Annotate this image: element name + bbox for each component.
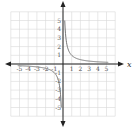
y-axis-down-arrow-icon: [61, 121, 66, 127]
axes: [5, 1, 124, 127]
x-tick-label: 4: [96, 65, 100, 72]
x-tick-label: -3: [34, 65, 40, 72]
x-axis-label: x: [127, 60, 132, 69]
y-tick-label: 4: [57, 25, 61, 32]
y-tick-label: 2: [57, 43, 61, 50]
hyperbola-branch: [65, 21, 109, 63]
y-tick-label: 3: [57, 34, 61, 41]
y-tick-label: -5: [55, 104, 61, 111]
x-axis-right-arrow-icon: [118, 62, 124, 67]
x-tick-label: 2: [78, 65, 82, 72]
x-axis-left-arrow-icon: [5, 62, 11, 67]
y-tick-label: 5: [57, 17, 61, 24]
x-tick-label: 3: [87, 65, 91, 72]
x-tick-label: 5: [105, 65, 109, 72]
y-tick-label: 1: [57, 51, 61, 58]
y-axis-up-arrow-icon: [61, 1, 66, 7]
hyperbola-graph: -5-4-3-2-11234554321-1-2-3-4-5 x: [0, 0, 139, 129]
x-tick-label: 1: [70, 65, 74, 72]
